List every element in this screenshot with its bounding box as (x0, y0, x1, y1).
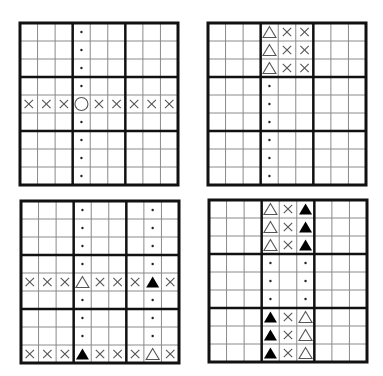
cross-icon (26, 350, 34, 358)
dot-icon (81, 317, 83, 319)
cross-icon (300, 46, 308, 54)
dot-icon (268, 85, 270, 87)
dot-icon (269, 280, 271, 282)
grid-border (208, 23, 366, 185)
dot-icon (151, 263, 153, 265)
dot-icon (81, 209, 83, 211)
cross-icon (113, 278, 121, 286)
cross-icon (166, 278, 174, 286)
dot-icon (80, 175, 82, 177)
filled-triangle-icon (264, 348, 277, 359)
dot-icon (80, 31, 82, 33)
cross-icon (130, 100, 138, 108)
dot-icon (80, 121, 82, 123)
dot-icon (81, 245, 83, 247)
cross-icon (131, 278, 139, 286)
cross-icon (26, 278, 34, 286)
hollow-triangle-icon (264, 240, 277, 251)
dot-icon (80, 85, 82, 87)
cross-icon (147, 100, 155, 108)
dot-icon (268, 157, 270, 159)
dot-icon (304, 298, 306, 300)
dot-icon (268, 175, 270, 177)
dot-icon (268, 139, 270, 141)
cross-icon (95, 100, 103, 108)
filled-triangle-icon (299, 204, 312, 215)
sudoku-grid-top-right (208, 23, 366, 185)
hollow-triangle-icon (263, 63, 276, 74)
cross-icon (284, 349, 292, 357)
hollow-triangle-icon (263, 45, 276, 56)
sudoku-grid-bottom-right (209, 200, 367, 362)
filled-triangle-icon (76, 349, 89, 360)
dot-icon (80, 157, 82, 159)
cross-icon (300, 64, 308, 72)
hollow-triangle-icon (299, 330, 312, 341)
cross-icon (25, 100, 33, 108)
hollow-triangle-icon (76, 277, 89, 288)
cross-icon (96, 350, 104, 358)
cross-icon (61, 278, 69, 286)
dot-icon (151, 317, 153, 319)
dot-icon (81, 263, 83, 265)
grid-border (209, 200, 367, 362)
cross-icon (131, 350, 139, 358)
sudoku-grid-top-left (20, 23, 178, 185)
hollow-triangle-icon (299, 348, 312, 359)
cross-icon (284, 241, 292, 249)
dot-icon (81, 335, 83, 337)
dot-icon (304, 280, 306, 282)
cross-icon (284, 223, 292, 231)
filled-triangle-icon (299, 222, 312, 233)
dot-icon (151, 299, 153, 301)
dot-icon (81, 227, 83, 229)
cross-icon (112, 100, 120, 108)
cross-icon (60, 100, 68, 108)
cross-icon (96, 278, 104, 286)
dot-icon (269, 298, 271, 300)
dot-icon (151, 227, 153, 229)
dot-icon (304, 262, 306, 264)
hollow-triangle-icon (146, 349, 159, 360)
cross-icon (113, 350, 121, 358)
dot-icon (80, 49, 82, 51)
sudoku-grid-bottom-left (21, 201, 179, 363)
cross-icon (283, 46, 291, 54)
dot-icon (268, 103, 270, 105)
dot-icon (269, 262, 271, 264)
filled-triangle-icon (264, 330, 277, 341)
cross-icon (284, 331, 292, 339)
cross-icon (165, 100, 173, 108)
dot-icon (151, 209, 153, 211)
filled-triangle-icon (146, 277, 159, 288)
filled-triangle-icon (299, 240, 312, 251)
cross-icon (43, 350, 51, 358)
cross-icon (283, 64, 291, 72)
cross-icon (300, 28, 308, 36)
cross-icon (284, 313, 292, 321)
cross-icon (61, 350, 69, 358)
dot-icon (81, 299, 83, 301)
cross-icon (42, 100, 50, 108)
dot-icon (268, 121, 270, 123)
dot-icon (151, 335, 153, 337)
hollow-triangle-icon (299, 312, 312, 323)
hollow-triangle-icon (263, 27, 276, 38)
dot-icon (80, 67, 82, 69)
cross-icon (284, 205, 292, 213)
hollow-triangle-icon (264, 204, 277, 215)
filled-triangle-icon (264, 312, 277, 323)
dot-icon (151, 245, 153, 247)
cross-icon (283, 28, 291, 36)
cross-icon (43, 278, 51, 286)
cross-icon (166, 350, 174, 358)
hollow-triangle-icon (264, 222, 277, 233)
dot-icon (80, 139, 82, 141)
circle-icon (75, 98, 88, 111)
